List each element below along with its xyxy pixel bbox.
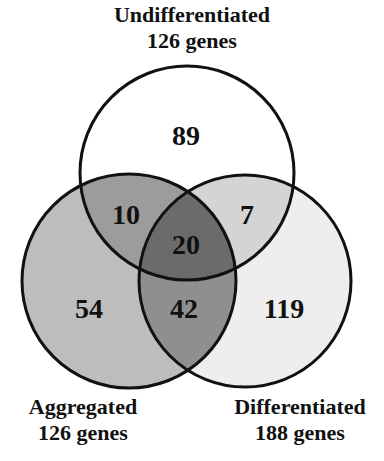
undifferentiated-label: Undifferentiated 126 genes [82,2,302,54]
differentiated-label: Differentiated 188 genes [220,394,380,446]
venn-diagram: 89 10 7 20 54 42 119 [0,0,384,461]
region-all-three: 20 [172,229,200,260]
region-undiff-only: 89 [172,120,200,151]
differentiated-count: 188 genes [220,420,380,446]
undifferentiated-count: 126 genes [82,28,302,54]
region-undiff-aggr: 10 [112,199,140,230]
differentiated-name: Differentiated [220,394,380,420]
aggregated-label: Aggregated 126 genes [8,394,158,446]
undifferentiated-name: Undifferentiated [82,2,302,28]
region-undiff-diff: 7 [240,199,254,230]
region-diff-only: 119 [264,293,304,324]
region-aggr-diff: 42 [170,293,198,324]
aggregated-name: Aggregated [8,394,158,420]
region-aggr-only: 54 [75,293,103,324]
aggregated-count: 126 genes [8,420,158,446]
